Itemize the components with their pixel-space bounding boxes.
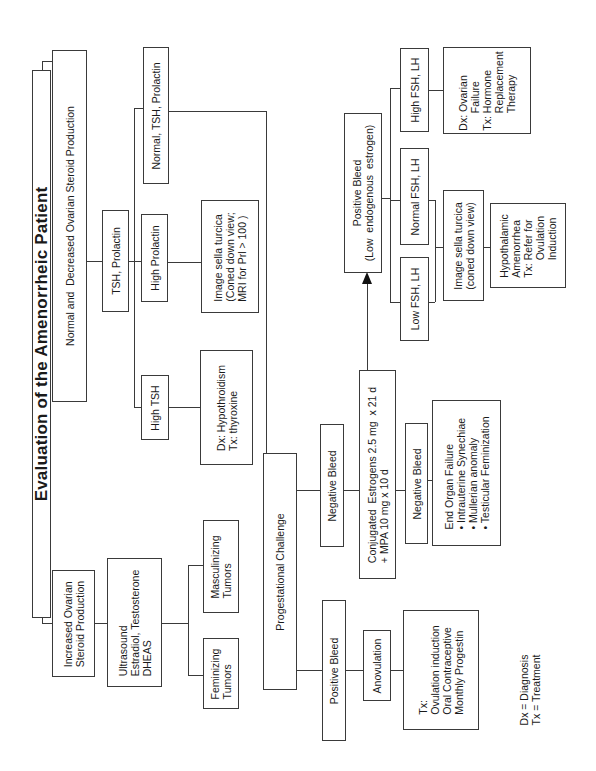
page-title: Evaluation of the Amenorrheic Patient [33, 187, 51, 502]
node-conjugated-estrogens: Conjugated Estrogens 2.5 mg x 21 d + MPA… [359, 370, 396, 579]
node-tsh-prolactin: TSH, Prolactin [102, 210, 129, 312]
connector [188, 565, 189, 675]
arrow-up-icon [362, 272, 372, 284]
connector [134, 108, 143, 109]
title-box: Evaluation of the Amenorrheic Patient [32, 70, 51, 618]
connector [266, 111, 267, 453]
connector [344, 490, 359, 491]
connector [435, 247, 443, 248]
node-anovulation: Anovulation [363, 630, 391, 701]
node-normal-fsh-lh: Normal FSH, LH [400, 148, 429, 245]
node-ovarian-failure: Dx: Ovarian Failure Tx: Hormone Replacem… [443, 47, 531, 134]
connector [169, 407, 201, 408]
node-hypothalamic: Hypothalamic Amenorrhea Tx: Refer for Ov… [490, 203, 566, 288]
connector [429, 90, 443, 91]
connector [42, 61, 52, 62]
connector [367, 284, 368, 370]
connector [346, 670, 363, 671]
connector [168, 262, 201, 263]
node-normal-tsh-prolactin: Normal, TSH, Prolactin [143, 47, 169, 184]
connector [42, 61, 43, 70]
node-low-fsh-lh: Low FSH, LH [400, 257, 429, 341]
connector [42, 623, 52, 624]
node-high-prolactin: High Prolactin [141, 214, 168, 302]
legend: Dx = Diagnosis Tx = Treatment [515, 650, 545, 730]
connector [390, 88, 391, 303]
node-high-fsh-lh: High FSH, LH [400, 48, 429, 132]
connector [390, 88, 400, 89]
connector [297, 490, 320, 491]
node-masculinizing: Masculinizing Tumors [203, 520, 239, 613]
node-end-organ-failure: End Organ Failure • Intrauterine Synechi… [432, 400, 501, 546]
connector [396, 490, 405, 491]
connector [390, 200, 400, 201]
node-positive-bleed-1: Positive Bleed [322, 600, 346, 741]
node-anovulation-tx: Tx: Ovulation induction Oral Contracepti… [403, 610, 479, 730]
connector [188, 565, 203, 566]
node-high-tsh: High TSH [141, 375, 169, 440]
connector [162, 623, 188, 624]
connector [391, 670, 403, 671]
node-increased: Increased Ovarian Steroid Production [52, 570, 95, 677]
node-hypothyroidism: Dx: Hypothroidism Tx: thyroxine [200, 350, 253, 465]
connector [188, 675, 203, 676]
node-feminizing: Feminizing Tumors [203, 638, 239, 709]
node-progestational: Progestational Challenge [263, 453, 297, 690]
node-negative-bleed-2: Negative Bleed [405, 423, 428, 544]
node-sella-coned: Image sella turcica (coned down view) [443, 190, 484, 301]
connector [390, 302, 400, 303]
connector [87, 261, 103, 262]
node-normal-decreased: Normal and Decreased Ovarian Steroid Pro… [52, 50, 87, 402]
node-positive-bleed-2: Positive Bleed (Low endogenous estrogen) [344, 113, 382, 273]
connector [429, 302, 435, 303]
connector [134, 108, 135, 408]
node-ultrasound: Ultrasound Estradiol, Testosterone DHEAS [107, 558, 162, 687]
node-negative-bleed-1: Negative Bleed [320, 424, 344, 547]
connector [169, 111, 266, 112]
connector [435, 200, 436, 302]
node-sella-mri: Image sella turcica (Coned down view; MR… [201, 200, 259, 313]
connector [382, 198, 390, 199]
connector [297, 670, 322, 671]
